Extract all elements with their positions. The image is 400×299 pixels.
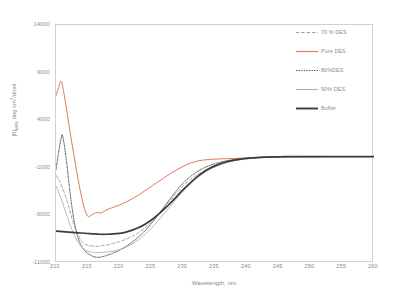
series-line [56, 157, 374, 235]
x-tick-label: 260 [368, 263, 378, 269]
legend-label: 90% DES [321, 86, 345, 92]
y-tick-label: -11000 [32, 259, 50, 265]
y-tick-label: -6000 [35, 211, 50, 217]
y-axis-ticks: 1400090004000-1000-6000-11000 [0, 24, 53, 262]
legend-swatch-icon [296, 48, 318, 55]
cd-spectrum-figure: 1400090004000-1000-6000-11000 [θ]MRE deg… [0, 0, 400, 299]
x-axis-title: Wavelength, nm [55, 279, 373, 286]
legend-swatch-icon [296, 105, 318, 112]
x-axis-ticks: 210215220225230235240245250255260 [55, 263, 373, 275]
y-tick-label: 14000 [34, 21, 50, 27]
legend-swatch-icon [296, 86, 318, 93]
legend-label: 70 % DES [321, 29, 347, 35]
y-axis-title: [θ]MRE deg cm2/dmol [9, 50, 19, 170]
legend-label: Pure DES [321, 48, 346, 54]
series-line [56, 135, 374, 258]
x-tick-label: 250 [304, 263, 314, 269]
series-line [56, 157, 374, 247]
x-tick-label: 230 [177, 263, 187, 269]
legend-swatch-icon [296, 67, 318, 74]
legend-swatch-icon [296, 29, 318, 36]
x-tick-label: 255 [336, 263, 346, 269]
x-tick-label: 240 [241, 263, 251, 269]
legend-label: Buffer [321, 105, 336, 111]
x-tick-label: 210 [50, 263, 60, 269]
x-tick-label: 225 [145, 263, 155, 269]
legend-item[interactable]: 90% DES [296, 85, 372, 93]
chart-legend: 70 % DESPure DES80%DES90% DESBuffer [296, 28, 372, 112]
y-tick-label: 9000 [37, 69, 50, 75]
legend-label: 80%DES [321, 67, 343, 73]
y-tick-label: 4000 [37, 116, 50, 122]
legend-item[interactable]: 70 % DES [296, 28, 372, 36]
x-tick-label: 220 [114, 263, 124, 269]
x-tick-label: 235 [209, 263, 219, 269]
legend-item[interactable]: 80%DES [296, 66, 372, 74]
x-tick-label: 245 [273, 263, 283, 269]
series-line [56, 157, 374, 253]
legend-item[interactable]: Pure DES [296, 47, 372, 55]
legend-item[interactable]: Buffer [296, 104, 372, 112]
y-tick-label: -1000 [35, 164, 50, 170]
x-tick-label: 215 [82, 263, 92, 269]
